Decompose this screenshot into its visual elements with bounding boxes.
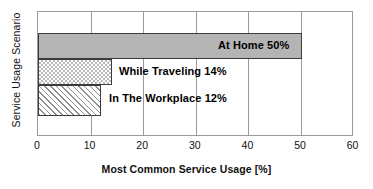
bar-label-while-traveling: While Traveling 14% <box>119 65 227 77</box>
x-tick-50: 50 <box>294 139 306 151</box>
bar-while-traveling[interactable] <box>38 59 112 85</box>
bar-in-the-workplace[interactable] <box>38 85 101 116</box>
x-tick-20: 20 <box>136 139 148 151</box>
bar-label-at-home: At Home 50% <box>218 39 289 51</box>
x-tick-30: 30 <box>189 139 201 151</box>
bar-chart: Service Usage Scenario At Home 50% While… <box>0 0 373 189</box>
plot-area: At Home 50% While Traveling 14% In The W… <box>37 11 353 136</box>
gridline-50 <box>301 12 302 135</box>
gridline-40 <box>248 12 249 135</box>
y-axis-title: Service Usage Scenario <box>10 5 22 135</box>
x-tick-10: 10 <box>84 139 96 151</box>
x-tick-60: 60 <box>347 139 359 151</box>
x-tick-40: 40 <box>242 139 254 151</box>
x-axis-title: Most Common Service Usage [%] <box>0 163 373 175</box>
x-tick-0: 0 <box>34 139 40 151</box>
bar-label-in-the-workplace: In The Workplace 12% <box>109 92 227 104</box>
